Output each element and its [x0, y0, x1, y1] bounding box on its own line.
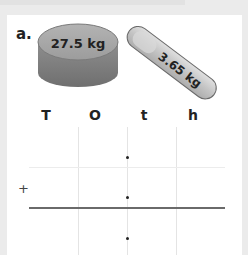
- plus-sign: +: [18, 182, 29, 195]
- header-tens: T: [36, 107, 56, 123]
- question-card: a. 27.5 kg 3.6: [7, 15, 242, 255]
- header-hundredths: h: [183, 107, 203, 123]
- place-value-headers: T O t h: [7, 107, 242, 127]
- tub-object: 27.5 kg: [38, 24, 118, 87]
- answer-cell-row2[interactable]: [29, 168, 225, 206]
- header-tenths: t: [134, 107, 154, 123]
- header-ones: O: [85, 107, 105, 123]
- column-addition-grid: +: [7, 127, 242, 255]
- tube-object: 3.65 kg: [123, 22, 221, 103]
- answer-cell-result[interactable]: [29, 210, 225, 255]
- answer-line: [29, 207, 225, 209]
- weights-illustration: 27.5 kg 3.65 kg: [7, 15, 242, 105]
- top-strip: [0, 0, 185, 5]
- answer-cell-row1[interactable]: [29, 127, 225, 167]
- tub-weight-label: 27.5 kg: [51, 36, 106, 51]
